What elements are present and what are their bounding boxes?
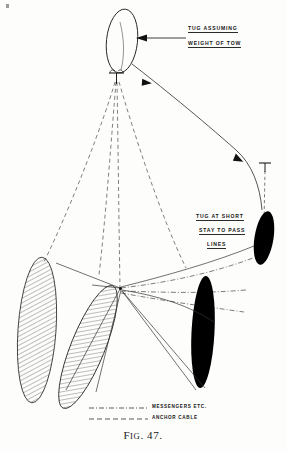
legend-label-anchor-cable: ANCHOR CABLE [152,415,198,420]
annotation-tug-short-stay-line2: STAY TO PASS [199,227,245,235]
rigging-to-left-hull-bow [56,263,120,288]
tug-right-black-hull [250,210,277,266]
ship-hatched-right-hull [48,279,129,414]
towline-top-to-right-tug [132,64,262,210]
callout-arrow-tug-assuming [136,35,186,42]
rigging-to-right-tug [121,246,254,287]
anchor-cable-center [117,82,120,288]
diagram-canvas [0,0,286,451]
towline-arrowhead-lower [233,153,245,164]
rigging-junction-node [119,287,122,290]
tow-line-curves [132,64,262,210]
tug-top-hull-inner-line [120,22,124,70]
ship-hatched-left-hull [13,256,61,404]
rigging-to-lower-tug-a [122,291,196,390]
anchor-cable-lines [44,82,186,288]
anchor-cable-right [119,82,186,268]
annotation-tug-assuming-line1: TUG ASSUMING [188,25,238,33]
anchor-marker-right-icon [259,163,271,172]
ship-hatched-right-outline [48,279,129,414]
messenger-to-right-tug [121,258,253,288]
figure-caption-ig: IG [130,431,140,441]
messenger-lines [121,258,253,312]
figure-caption: FIG. 47. [0,429,286,441]
messenger-to-lower-tug [121,290,246,292]
annotation-tug-short-stay-line1: TUG AT SHORT [196,213,244,221]
messenger-lower-curve [121,293,244,312]
ship-hatched-left-outline [13,256,61,404]
anchor-cable-left-inner [99,82,116,275]
figure-47-towing-diagram: TUG ASSUMING WEIGHT OF TOW TUG AT SHORT … [0,0,286,451]
towline-arrowheads [142,79,245,165]
towline-arrowhead-upper [142,79,152,87]
anchor-cable-left-outer [44,82,115,262]
annotation-tug-assuming-line2: WEIGHT OF TOW [188,40,241,48]
figure-caption-number: . 47. [140,429,162,441]
legend-label-messengers: MESSENGERS ETC. [152,404,207,409]
tug-top-outline-hull [103,8,141,75]
annotation-tug-short-stay-line3: LINES [207,241,226,249]
